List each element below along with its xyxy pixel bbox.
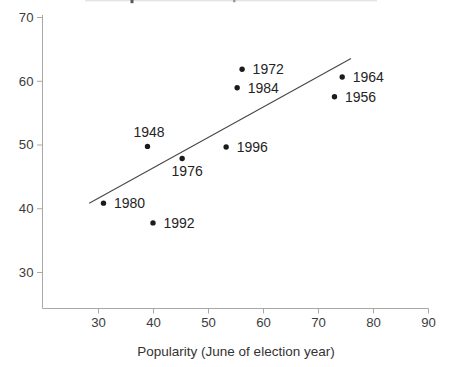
data-point-label-1976: 1976 — [172, 163, 203, 179]
x-tick-label: 90 — [421, 315, 436, 330]
data-point-label-1980: 1980 — [114, 195, 145, 211]
y-tick-label: 70 — [19, 10, 34, 25]
x-tick-label: 60 — [256, 315, 271, 330]
data-point-1948 — [145, 144, 150, 149]
y-tick-label: 40 — [19, 201, 34, 216]
data-point-label-1996: 1996 — [237, 139, 268, 155]
y-tick-label: 50 — [19, 137, 34, 152]
cropped-title-streak — [85, 0, 377, 1]
cropped-title-remnant — [85, 0, 377, 3]
x-tick-label: 80 — [366, 315, 381, 330]
cropped-title-mark — [131, 0, 134, 3]
data-point-label-1956: 1956 — [345, 89, 376, 105]
x-axis-title: Popularity (June of election year) — [137, 344, 334, 359]
data-point-label-1984: 1984 — [248, 80, 279, 96]
y-tick-label: 60 — [19, 74, 34, 89]
data-point-1992 — [150, 220, 155, 225]
data-point-label-1948: 1948 — [133, 124, 164, 140]
data-point-1984 — [234, 85, 239, 90]
x-tick-label: 50 — [201, 315, 216, 330]
scatter-plot-svg: 3040506070809030405060701948195619641972… — [0, 0, 449, 367]
data-point-1980 — [101, 200, 106, 205]
y-tick-label: 30 — [19, 265, 34, 280]
data-point-1956 — [332, 94, 337, 99]
data-point-label-1972: 1972 — [253, 61, 284, 77]
data-point-1996 — [223, 144, 228, 149]
data-point-1976 — [179, 156, 184, 161]
data-point-label-1992: 1992 — [164, 215, 195, 231]
cropped-title-mark — [233, 0, 236, 2]
data-point-1972 — [239, 67, 244, 72]
data-point-label-1964: 1964 — [353, 69, 384, 85]
x-tick-label: 70 — [311, 315, 326, 330]
trend-line — [89, 58, 351, 203]
x-tick-label: 40 — [146, 315, 161, 330]
data-point-1964 — [340, 74, 345, 79]
figure-scatterplot-presidential-popularity: 3040506070809030405060701948195619641972… — [0, 0, 449, 367]
x-tick-label: 30 — [91, 315, 106, 330]
